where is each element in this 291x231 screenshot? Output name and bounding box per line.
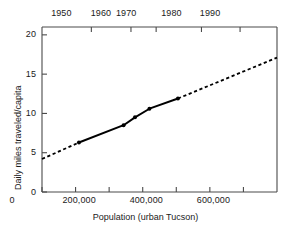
year-tick-label: 1990 [180, 9, 240, 18]
y-tick-label: 15 [16, 70, 36, 79]
x-tick-label: 0 [0, 196, 42, 205]
chart-figure: Population (urban Tucson) Daily miles tr… [0, 0, 291, 231]
data-point [122, 123, 126, 127]
x-axis-title: Population (urban Tucson) [0, 213, 291, 222]
series-line-extrapolation-low [42, 143, 79, 160]
y-tick-label: 5 [16, 148, 36, 157]
x-tick-label: 200,000 [49, 196, 109, 205]
y-tick-label: 20 [16, 30, 36, 39]
x-tick-label: 600,000 [183, 196, 243, 205]
x-tick-label: 400,000 [116, 196, 176, 205]
y-tick-label: 10 [16, 109, 36, 118]
data-point [147, 107, 151, 111]
y-axis-title: Daily miles traveled/capita [14, 85, 23, 190]
series-line-extrapolation-high [178, 58, 277, 99]
data-point [133, 115, 137, 119]
data-point [77, 141, 81, 145]
series-line-observed [79, 99, 178, 143]
